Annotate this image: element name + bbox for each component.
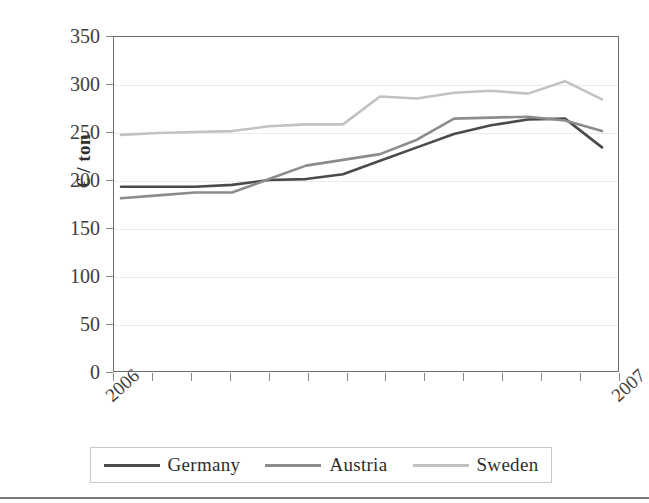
legend-line-swatch xyxy=(265,464,321,467)
legend-item-sweden[interactable]: Sweden xyxy=(413,454,539,476)
x-axis-tick-label: 2007 xyxy=(607,365,649,407)
x-axis-tick-label: 2006 xyxy=(101,365,144,407)
x-axis-tick-labels: 20062007 xyxy=(0,0,649,503)
legend-label: Austria xyxy=(329,454,387,476)
legend-label: Sweden xyxy=(477,454,539,476)
legend-line-swatch xyxy=(413,464,469,467)
line-chart-figure: € / ton 050100150200250300350 20062007 G… xyxy=(0,0,649,503)
legend-label: Germany xyxy=(168,454,241,476)
legend-line-swatch xyxy=(104,464,160,467)
legend-item-germany[interactable]: Germany xyxy=(104,454,241,476)
chart-legend: GermanyAustriaSweden xyxy=(90,447,552,483)
bottom-divider xyxy=(0,497,649,499)
legend-item-austria[interactable]: Austria xyxy=(265,454,387,476)
